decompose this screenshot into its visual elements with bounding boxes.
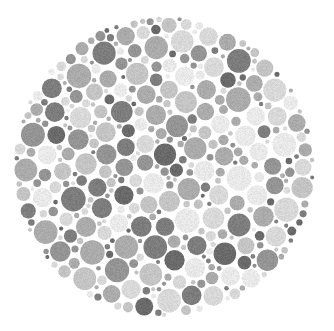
ishihara-plate-figure [0, 0, 334, 331]
ishihara-plate-canvas [0, 0, 334, 331]
